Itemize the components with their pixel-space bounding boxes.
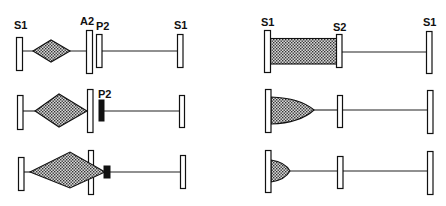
label-a2: A2	[80, 15, 94, 27]
label-s1-left: S1	[14, 19, 27, 31]
diamond-region	[33, 40, 70, 62]
s1-bar	[180, 96, 185, 128]
bullet-region	[271, 97, 314, 124]
p2-block	[104, 166, 110, 178]
p2-bar	[97, 35, 103, 68]
label-s2: S2	[333, 21, 346, 33]
s1-bar	[181, 156, 186, 189]
shaded-rect-region	[270, 39, 337, 65]
label-p2: P2	[98, 88, 111, 100]
label-p2: P2	[96, 20, 109, 32]
bullet-region	[271, 160, 290, 182]
right-row-1: S1 S2 S1	[261, 16, 436, 74]
s1-bar	[266, 151, 272, 193]
s1-bar	[18, 96, 24, 130]
diagram-canvas: S1 A2 P2 S1 P2	[0, 0, 446, 206]
left-panel: S1 A2 P2 S1 P2	[14, 15, 187, 195]
s2-bar	[337, 35, 343, 68]
label-s1-left: S1	[261, 16, 274, 28]
left-row-2: P2	[18, 88, 185, 133]
left-row-3	[19, 151, 186, 195]
s1-bar	[427, 32, 433, 74]
right-row-2	[266, 90, 434, 134]
s1-bar	[17, 38, 23, 71]
left-row-1: S1 A2 P2 S1	[14, 15, 187, 74]
s1-bar	[19, 158, 25, 191]
right-panel: S1 S2 S1	[261, 16, 436, 195]
diamond-region	[35, 94, 87, 127]
a2-bar	[87, 31, 93, 74]
a2-bar	[88, 90, 94, 133]
s2-bar	[338, 96, 343, 128]
s2-bar	[338, 157, 344, 189]
s1-bar	[265, 31, 271, 73]
label-s1-right: S1	[174, 19, 187, 31]
s1-bar	[266, 90, 272, 133]
s1-bar	[428, 91, 434, 134]
label-s1-right: S1	[423, 16, 436, 28]
s1-bar	[428, 152, 434, 195]
s1-bar	[178, 35, 184, 68]
p2-block	[99, 100, 104, 121]
right-row-3	[266, 151, 434, 195]
